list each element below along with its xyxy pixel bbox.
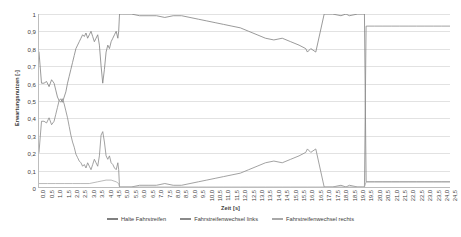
x-tick-label: 11,0 [225,190,231,201]
x-tick-label: 16,5 [318,190,324,201]
x-tick-label: 10,5 [217,190,223,201]
x-tick-label: 6,0 [141,190,147,198]
expected-utility-line-chart: Erwartungsnutzen [-] 10,90,80,70,60,50,4… [0,0,461,237]
legend-label: Fahrstreifenwechsel rechts [286,216,354,222]
x-tick-label: 2,0 [74,190,80,198]
y-tick-label: 0 [14,185,36,192]
x-tick-label: 21,0 [394,190,400,201]
y-tick-label: 0,9 [14,28,36,35]
x-tick-label: 1,0 [57,190,63,198]
y-tick-label: 0,1 [14,167,36,174]
x-tick-label: 21,5 [402,190,408,201]
x-tick-label: 15,5 [301,190,307,201]
series-layer [39,14,450,187]
x-tick-label: 23,5 [436,190,442,201]
legend-item[interactable]: Halte Fahrstreifen [107,216,166,222]
x-tick-label: 10,0 [209,190,215,201]
x-tick-label: 8,5 [183,190,189,198]
x-tick-label: 0,0 [40,190,46,198]
y-tick-label: 0,4 [14,115,36,122]
y-tick-label: 0,3 [14,132,36,139]
x-tick-label: 19,0 [360,190,366,201]
x-tick-label: 9,5 [200,190,206,198]
x-tick-label: 3,0 [91,190,97,198]
y-tick-label: 1 [14,11,36,18]
y-tick-label: 0,6 [14,80,36,87]
x-tick-label: 1,5 [66,190,72,198]
y-tick-label: 0,5 [14,98,36,105]
y-tick-label: 0,2 [14,150,36,157]
legend-label: Fahrstreifenwechsel links [194,216,258,222]
x-tick-label: 12,5 [251,190,257,201]
x-tick-label: 18,0 [343,190,349,201]
x-tick-label: 24,0 [444,190,450,201]
legend-line-icon [107,218,118,219]
x-tick-label: 17,0 [326,190,332,201]
x-tick-label: 24,5 [452,190,458,201]
series-line [39,14,450,182]
x-tick-label: 4,5 [116,190,122,198]
x-tick-label: 22,0 [410,190,416,201]
x-tick-label: 7,0 [158,190,164,198]
x-tick-label: 15,0 [293,190,299,201]
x-tick-label: 11,5 [234,190,240,201]
legend-line-icon [180,218,191,219]
x-tick-label: 4,0 [108,190,114,198]
x-tick-label: 2,5 [82,190,88,198]
x-tick-label: 5,0 [124,190,130,198]
x-axis-title: Zeit [s] [0,205,461,211]
x-tick-label: 3,5 [99,190,105,198]
x-tick-label: 18,5 [352,190,358,201]
x-tick-label: 7,5 [167,190,173,198]
x-tick-label: 16,0 [309,190,315,201]
x-tick-label: 14,0 [276,190,282,201]
y-axis-tick-labels: 10,90,80,70,60,50,40,30,20,10 [14,8,36,188]
chart-legend: Halte FahrstreifenFahrstreifenwechsel li… [0,216,461,222]
x-tick-label: 19,5 [368,190,374,201]
x-tick-label: 22,5 [419,190,425,201]
series-line [39,26,450,187]
x-tick-label: 9,0 [192,190,198,198]
x-tick-label: 20,5 [385,190,391,201]
x-tick-label: 23,0 [427,190,433,201]
x-tick-label: 17,5 [335,190,341,201]
plot-area [38,14,450,188]
legend-label: Halte Fahrstreifen [121,216,166,222]
legend-item[interactable]: Fahrstreifenwechsel links [180,216,258,222]
y-tick-label: 0,8 [14,45,36,52]
x-tick-label: 12,0 [242,190,248,201]
series-line [39,180,450,187]
legend-item[interactable]: Fahrstreifenwechsel rechts [272,216,354,222]
x-tick-label: 20,0 [377,190,383,201]
legend-line-icon [272,218,283,219]
x-tick-label: 14,5 [284,190,290,201]
x-tick-label: 8,0 [175,190,181,198]
x-tick-label: 13,0 [259,190,265,201]
x-tick-label: 13,5 [267,190,273,201]
x-tick-label: 5,5 [133,190,139,198]
x-tick-label: 0,5 [49,190,55,198]
x-tick-label: 6,5 [150,190,156,198]
y-tick-label: 0,7 [14,63,36,70]
